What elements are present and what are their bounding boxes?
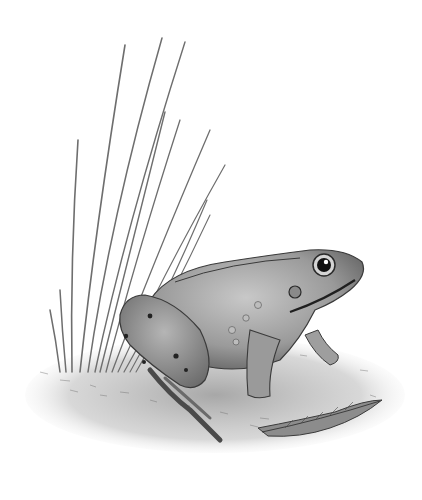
- frog-illustration: [0, 0, 422, 500]
- frog-eye: [313, 254, 335, 276]
- frog-ear: [289, 286, 301, 298]
- frog-drawing: [0, 0, 422, 500]
